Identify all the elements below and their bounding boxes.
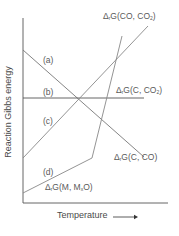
- line-a: [23, 50, 144, 157]
- label-c-co2: ΔrG(C, CO2): [116, 86, 162, 95]
- tag-b: (b): [43, 88, 53, 97]
- tag-c: (c): [43, 117, 53, 126]
- label-m-mxo: ΔrG(M, MxO): [45, 183, 93, 192]
- diagram-canvas: [0, 0, 179, 236]
- ellingham-diagram: (a) (b) (c) (d) ΔrG(CO, CO2) ΔrG(C, CO2)…: [0, 0, 179, 236]
- label-c-co: ΔrG(C, CO): [114, 153, 157, 162]
- y-axis-label: Reaction Gibbs energy: [3, 62, 13, 162]
- line-d: [23, 36, 122, 193]
- label-c-co-co2: ΔrG(CO, CO2): [103, 12, 156, 21]
- tag-a: (a): [43, 56, 53, 65]
- right-arrow-icon: [134, 215, 138, 219]
- x-axis-label: Temperature: [57, 210, 108, 220]
- tag-d: (d): [43, 168, 53, 177]
